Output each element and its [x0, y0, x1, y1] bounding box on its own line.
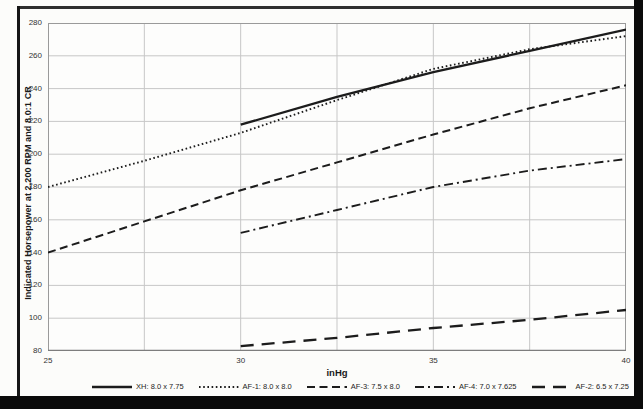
- x-tick-label: 25: [36, 356, 60, 365]
- x-axis-title: inHg: [287, 367, 387, 378]
- legend-line-sample: [307, 382, 347, 392]
- y-tick-label: 140: [2, 248, 42, 257]
- legend-line-sample: [532, 382, 572, 392]
- legend-line-sample: [199, 382, 239, 392]
- y-tick-label: 240: [2, 84, 42, 93]
- page-frame-top-border: [17, 6, 635, 9]
- y-tick-label: 260: [2, 51, 42, 60]
- y-tick-label: 160: [2, 215, 42, 224]
- y-tick-label: 100: [2, 313, 42, 322]
- legend-line-sample: [415, 382, 455, 392]
- page-frame-left-border: [17, 6, 20, 396]
- y-tick-label: 80: [2, 346, 42, 355]
- legend-label: AF-1: 8.0 x 8.0: [243, 382, 292, 391]
- x-tick-label: 35: [421, 356, 445, 365]
- y-tick-label: 280: [2, 18, 42, 27]
- chart-plot-area: [48, 23, 626, 351]
- y-tick-label: 120: [2, 280, 42, 289]
- chart-legend: XH: 8.0 x 7.75AF-1: 8.0 x 8.0AF-3: 7.5 x…: [17, 380, 634, 393]
- y-tick-label: 220: [2, 116, 42, 125]
- legend-item-3: AF-4: 7.0 x 7.625: [415, 382, 517, 392]
- scanned-page: Indicated Horsepower at 2,200 RPM and 8.…: [0, 0, 643, 409]
- legend-item-4: AF-2: 6.5 x 7.25: [532, 382, 629, 392]
- x-tick-label: 30: [229, 356, 253, 365]
- legend-item-1: AF-1: 8.0 x 8.0: [199, 382, 292, 392]
- page-frame-bottom-border: [0, 396, 643, 409]
- legend-item-0: XH: 8.0 x 7.75: [92, 382, 184, 392]
- legend-label: AF-3: 7.5 x 8.0: [351, 382, 400, 391]
- y-tick-label: 200: [2, 149, 42, 158]
- legend-item-2: AF-3: 7.5 x 8.0: [307, 382, 400, 392]
- page-frame-right-border: [634, 0, 643, 409]
- y-tick-label: 180: [2, 182, 42, 191]
- legend-label: XH: 8.0 x 7.75: [136, 382, 184, 391]
- legend-label: AF-4: 7.0 x 7.625: [459, 382, 517, 391]
- legend-line-sample: [92, 382, 132, 392]
- legend-label: AF-2: 6.5 x 7.25: [576, 382, 629, 391]
